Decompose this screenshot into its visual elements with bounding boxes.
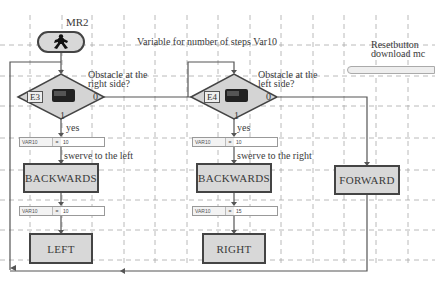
output-one-e3: 1 (60, 111, 65, 121)
variable-assign-2[interactable]: VAR10 = 10 (19, 206, 105, 216)
forward-block[interactable]: FORWARD (334, 165, 400, 195)
reset-label-2: download mc (371, 49, 425, 59)
question-left-2: right side? (88, 79, 130, 89)
variable-assign-4[interactable]: VAR10 = 15 (192, 206, 278, 216)
variable-value[interactable]: 15 (234, 207, 277, 215)
running-man-icon (39, 33, 83, 51)
variable-value[interactable]: 10 (234, 138, 277, 146)
program-label: MR2 (66, 17, 89, 27)
variable-comment: Variable for number of steps Var10 (137, 37, 277, 47)
comment-left: swerve to the left (64, 151, 133, 161)
sensor-label-e4: E4 (204, 91, 220, 103)
equals-icon: = (226, 139, 234, 145)
variable-assign-3[interactable]: VAR10 = 10 (192, 137, 278, 147)
equals-icon: = (226, 208, 234, 214)
variable-name: VAR10 (193, 138, 226, 146)
variable-value[interactable]: 10 (61, 138, 104, 146)
output-zero-e3: 0 (93, 92, 98, 102)
output-one-e4: 1 (234, 111, 239, 121)
variable-assign-1[interactable]: VAR10 = 10 (19, 137, 105, 147)
variable-name: VAR10 (193, 207, 226, 215)
question-right-2: left side? (258, 79, 294, 89)
backwards-block-left[interactable]: BACKWARDS (23, 163, 99, 193)
start-block[interactable] (37, 31, 85, 53)
left-block[interactable]: LEFT (29, 233, 93, 264)
variable-name: VAR10 (20, 138, 53, 146)
right-block[interactable]: RIGHT (202, 233, 266, 264)
comment-right: swerve to the right (237, 151, 312, 161)
equals-icon: = (53, 208, 61, 214)
sensor-icon (52, 89, 75, 102)
variable-value[interactable]: 10 (61, 207, 104, 215)
yes-label-e3: yes (66, 123, 79, 133)
reset-button[interactable] (347, 66, 435, 74)
variable-name: VAR10 (20, 207, 53, 215)
backwards-block-right[interactable]: BACKWARDS (196, 163, 272, 193)
equals-icon: = (53, 139, 61, 145)
flowchart-canvas: MR2 Variable for number of steps Var10 R… (0, 0, 435, 284)
sensor-label-e3: E3 (27, 91, 43, 103)
output-zero-e4: 0 (266, 92, 271, 102)
yes-label-e4: yes (237, 123, 250, 133)
